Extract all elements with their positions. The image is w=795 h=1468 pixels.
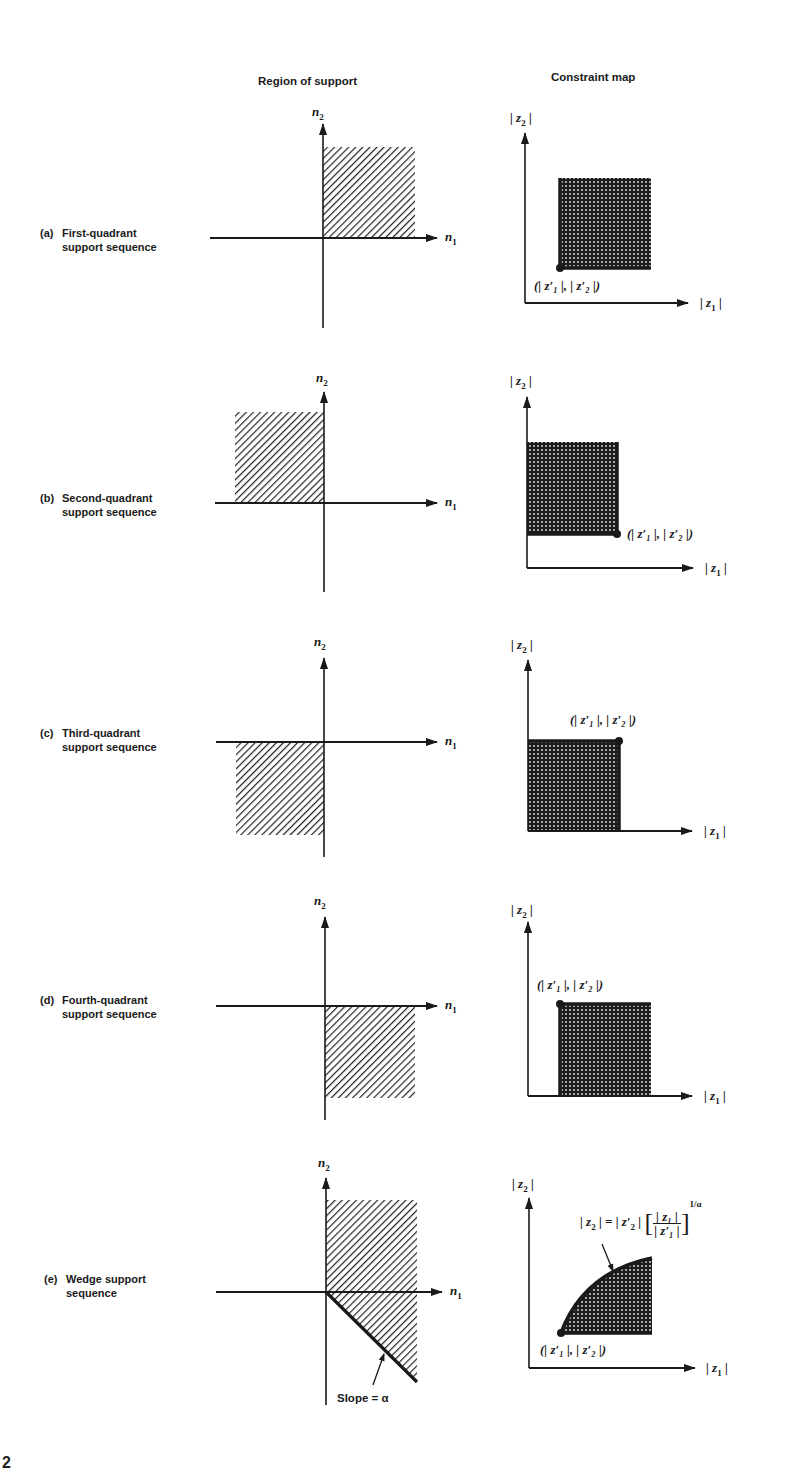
- wedge-constraint-formula: | z2 | = | z′2 | [| z₁ || z′₁ |]1/α: [580, 1208, 702, 1238]
- corner-point-dot: [557, 1329, 565, 1337]
- z1-axis-label: | z1 |: [706, 1360, 728, 1378]
- z2-axis-label: | z2 |: [511, 902, 533, 920]
- corner-point-dot: [615, 737, 623, 745]
- region-c-plot: [216, 658, 437, 857]
- row-label-b: (b)Second-quadrant support sequence: [40, 491, 157, 519]
- constraint-a-region: [560, 178, 651, 268]
- row-label-a: (a)First-quadrant support sequence: [40, 226, 157, 254]
- row-label-c: (c)Third-quadrant support sequence: [40, 726, 157, 754]
- n1-axis-label: n1: [445, 733, 457, 751]
- slope-pointer-arrow: [373, 1354, 384, 1385]
- n1-axis-label: n1: [445, 494, 457, 512]
- z1-axis-label: | z1 |: [700, 295, 722, 313]
- region-e-plot: [216, 1178, 442, 1405]
- region-a-plot: [210, 124, 437, 328]
- third-quadrant-hatch: [236, 742, 324, 835]
- corner-point-label-a: (| z′₁ |, | z′₂ |): [534, 278, 600, 294]
- z2-axis-label: | z2 |: [510, 110, 532, 128]
- corner-point-dot: [556, 1000, 564, 1008]
- z2-axis-label: | z2 |: [511, 637, 533, 655]
- corner-point-dot: [613, 530, 621, 538]
- region-b-plot: [215, 392, 437, 592]
- n2-axis-label: n2: [314, 893, 326, 911]
- corner-point-label-d: (| z′₁ |, | z′₂ |): [537, 977, 603, 993]
- z1-axis-label: | z1 |: [704, 823, 726, 841]
- first-quadrant-hatch: [323, 147, 415, 238]
- slope-label: Slope = α: [337, 1391, 389, 1405]
- constraint-b-region: [527, 442, 617, 534]
- n2-axis-label: n2: [316, 370, 328, 388]
- page-number-fragment: 2: [2, 1454, 11, 1468]
- z2-axis-label: | z2 |: [512, 1176, 534, 1194]
- constraint-d-plot: [528, 922, 692, 1096]
- n2-axis-label: n2: [312, 104, 324, 122]
- constraint-c-region: [528, 741, 619, 831]
- n1-axis-label: n1: [450, 1283, 462, 1301]
- n2-axis-label: n2: [318, 1155, 330, 1173]
- n2-axis-label: n2: [314, 634, 326, 652]
- formula-fraction: | z₁ || z′₁ |: [653, 1210, 681, 1237]
- constraint-d-region: [560, 1004, 651, 1096]
- corner-point-label-e: (| z′₁ |, | z′₂ |): [540, 1342, 606, 1358]
- row-label-d: (d)Fourth-quadrant support sequence: [40, 993, 157, 1021]
- z2-axis-label: | z2 |: [510, 373, 532, 391]
- fourth-quadrant-hatch: [325, 1006, 415, 1098]
- z1-axis-label: | z1 |: [705, 560, 727, 578]
- z1-axis-label: | z1 |: [704, 1088, 726, 1106]
- n1-axis-label: n1: [445, 229, 457, 247]
- corner-point-label-b: (| z′₁ |, | z′₂ |): [627, 526, 693, 542]
- constraint-c-plot: [528, 660, 692, 831]
- constraint-b-plot: [527, 397, 693, 568]
- constraint-e-region: [561, 1258, 652, 1333]
- corner-point-label-c: (| z′₁ |, | z′₂ |): [570, 712, 636, 728]
- right-bracket: ]: [681, 1208, 690, 1237]
- region-d-plot: [216, 917, 437, 1120]
- second-quadrant-hatch: [235, 412, 324, 503]
- row-label-e: (e)Wedge support sequence: [44, 1272, 146, 1300]
- corner-point-dot: [556, 264, 564, 272]
- formula-pointer-arrow: [602, 1244, 613, 1271]
- left-bracket: [: [644, 1208, 653, 1237]
- n1-axis-label: n1: [445, 997, 457, 1015]
